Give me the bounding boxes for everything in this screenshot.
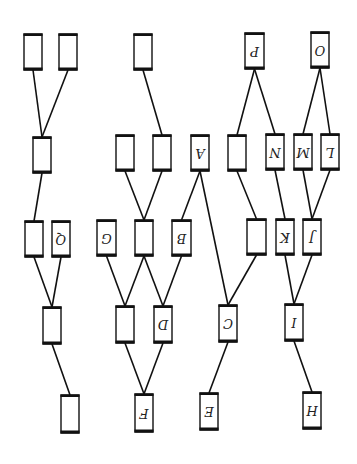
edge-r4b-F xyxy=(125,343,144,394)
node-M: M xyxy=(294,134,313,171)
node-label: O xyxy=(314,43,325,58)
node-box xyxy=(25,221,43,257)
edge-r3b-D xyxy=(144,256,163,306)
node-r5a xyxy=(61,395,80,434)
node-label: Q xyxy=(55,232,66,247)
edge-C-E xyxy=(209,342,228,393)
node-r2c xyxy=(153,135,172,172)
node-label: N xyxy=(269,145,282,160)
edge-r3c-C xyxy=(228,255,257,305)
node-G: G xyxy=(97,220,117,257)
node-box xyxy=(135,220,153,256)
node-box xyxy=(247,219,266,255)
node-box xyxy=(33,137,51,173)
node-B: B xyxy=(172,220,192,257)
edge-G-r4b xyxy=(107,256,126,306)
node-label: F xyxy=(139,406,150,421)
node-n2 xyxy=(59,34,78,71)
node-r3b xyxy=(135,220,154,257)
edge-N-K xyxy=(275,170,285,219)
edge-n2-r2a xyxy=(42,70,68,137)
node-r2a xyxy=(33,137,52,174)
edge-O-L xyxy=(320,68,330,134)
edge-I-H xyxy=(294,341,312,392)
node-label: C xyxy=(223,316,233,331)
node-K: K xyxy=(276,219,295,256)
edge-L-J xyxy=(312,170,330,219)
nodes-layer: POANMLQGBKJDCIFEH xyxy=(24,32,340,434)
edge-r3a-r4a xyxy=(34,257,52,307)
node-box xyxy=(24,34,42,70)
node-r3c xyxy=(247,219,267,256)
edge-B-D xyxy=(163,256,182,306)
edge-r2b-r3b xyxy=(125,171,144,220)
edge-P-r2d xyxy=(237,69,255,135)
edge-K-I xyxy=(285,255,294,304)
node-label: I xyxy=(291,315,298,330)
edge-M-J xyxy=(303,170,312,219)
edge-n3-r2c xyxy=(143,70,162,135)
edge-J-I xyxy=(294,255,312,304)
node-N: N xyxy=(266,134,285,171)
node-I: I xyxy=(285,304,304,342)
node-label: G xyxy=(101,231,111,246)
node-label: A xyxy=(195,146,205,161)
node-box xyxy=(228,135,246,171)
node-label: D xyxy=(157,317,169,332)
edge-r2a-r3a xyxy=(34,173,42,221)
node-label: P xyxy=(250,44,260,59)
node-J: J xyxy=(303,219,322,256)
node-n3 xyxy=(134,34,153,71)
node-L: L xyxy=(321,134,340,171)
node-box xyxy=(59,34,77,70)
edge-r3b-r4b xyxy=(125,256,144,306)
node-box xyxy=(116,135,134,171)
node-r4a xyxy=(43,307,62,345)
edge-O-M xyxy=(303,68,320,134)
node-r4b xyxy=(116,306,135,344)
node-box xyxy=(153,135,171,171)
node-E: E xyxy=(200,393,219,431)
edge-Q-r4a xyxy=(52,257,61,307)
node-box xyxy=(116,306,134,343)
node-box xyxy=(43,307,61,344)
node-r2b xyxy=(116,135,135,172)
node-r2d xyxy=(228,135,247,172)
node-F: F xyxy=(135,394,154,433)
node-label: H xyxy=(306,403,319,418)
node-label: B xyxy=(177,231,188,246)
node-Q: Q xyxy=(52,221,71,258)
node-label: K xyxy=(279,230,291,245)
edge-P-N xyxy=(255,69,276,134)
node-label: M xyxy=(296,145,311,160)
node-A: A xyxy=(191,135,210,172)
node-H: H xyxy=(303,392,322,430)
edge-A-C xyxy=(200,171,228,305)
edge-D-F xyxy=(144,343,163,394)
edge-r2c-r3b xyxy=(144,171,162,220)
node-box xyxy=(134,34,152,70)
node-r3a xyxy=(25,221,44,258)
tree-diagram: POANMLQGBKJDCIFEH xyxy=(0,0,357,464)
node-C: C xyxy=(219,305,238,343)
node-label: E xyxy=(204,404,215,419)
node-D: D xyxy=(154,306,173,344)
edge-r4a-r5a xyxy=(52,344,70,395)
edge-A-B xyxy=(182,171,201,220)
edge-r2d-r3c xyxy=(237,171,257,219)
edge-n1-r2a xyxy=(33,70,42,137)
node-n1 xyxy=(24,34,43,71)
node-box xyxy=(61,395,79,433)
node-P: P xyxy=(245,33,265,70)
node-label: L xyxy=(326,145,336,160)
node-O: O xyxy=(311,32,330,69)
